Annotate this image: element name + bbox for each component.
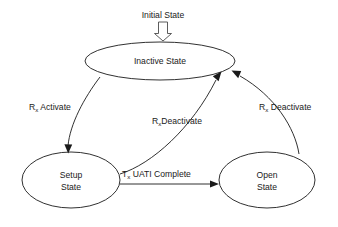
state-label-open-line2: State bbox=[257, 182, 277, 192]
transition-setup-to-open: Tx UATI Complete bbox=[120, 169, 219, 188]
state-diagram-canvas: Initial State Inactive State Setup State… bbox=[0, 0, 338, 227]
arrow-head-setup-to-open bbox=[210, 180, 219, 187]
transition-path-setup-to-inactive bbox=[120, 80, 216, 174]
state-label-inactive: Inactive State bbox=[134, 56, 186, 66]
state-ellipse-setup bbox=[22, 152, 120, 208]
transition-open-to-inactive: Rx Deactivate bbox=[232, 71, 312, 155]
transition-path-open-to-inactive bbox=[240, 76, 299, 154]
transition-label-setup-to-inactive: RxDeactivate bbox=[152, 116, 202, 127]
initial-state-label: Initial State bbox=[142, 10, 185, 20]
state-label-setup-line2: State bbox=[61, 182, 81, 192]
transition-inactive-to-setup: Rx Activate bbox=[29, 77, 100, 154]
arrow-head-open-to-inactive bbox=[232, 71, 242, 79]
transition-label-setup-to-open: Tx UATI Complete bbox=[122, 169, 191, 180]
block-arrow-down-icon bbox=[155, 22, 172, 41]
state-node-inactive[interactable]: Inactive State bbox=[85, 42, 235, 80]
transition-label-inactive-to-setup: Rx Activate bbox=[29, 102, 71, 113]
transition-label-open-to-inactive: Rx Deactivate bbox=[259, 102, 312, 113]
state-label-setup-line1: Setup bbox=[60, 170, 83, 180]
state-diagram: Initial State Inactive State Setup State… bbox=[0, 0, 338, 227]
state-label-open-line1: Open bbox=[256, 170, 277, 180]
state-ellipse-open bbox=[219, 152, 315, 208]
state-node-setup[interactable]: Setup State bbox=[22, 152, 120, 208]
state-node-open[interactable]: Open State bbox=[219, 152, 315, 208]
transition-setup-to-inactive: RxDeactivate bbox=[120, 72, 222, 175]
transition-path-inactive-to-setup bbox=[68, 77, 100, 146]
